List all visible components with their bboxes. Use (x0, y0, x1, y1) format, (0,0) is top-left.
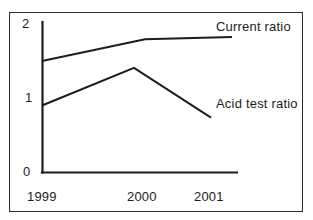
x-axis-tick-label-1999: 1999 (27, 190, 57, 203)
x-axis-tick-label-2000: 2000 (127, 190, 157, 203)
series-line-acid-test-ratio (42, 68, 211, 118)
series-line-current-ratio (42, 37, 232, 61)
y-axis-tick-label-1: 1 (25, 91, 32, 104)
x-axis-tick-label-2001: 2001 (194, 190, 224, 203)
y-axis-tick-label-2: 2 (22, 17, 29, 30)
series-label-current-ratio: Current ratio (216, 20, 291, 33)
chart-figure: 2 1 0 1999 2000 2001 Current ratio Acid … (0, 0, 313, 220)
y-axis-tick-label-0: 0 (23, 165, 30, 178)
series-label-acid-test-ratio: Acid test ratio (216, 97, 298, 110)
